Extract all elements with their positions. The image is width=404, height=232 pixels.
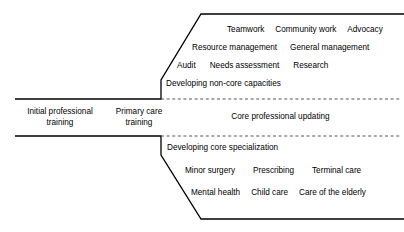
stage-initial-line2: training	[14, 118, 106, 129]
item-needs-assessment: Needs assessment	[210, 61, 280, 70]
upper-row-management: Resource management General management	[192, 43, 369, 52]
item-mental-health: Mental health	[191, 188, 240, 197]
item-community-work: Community work	[275, 25, 336, 34]
career-pathway-diagram: Teamwork Community work Advocacy Resourc…	[0, 0, 404, 232]
item-research: Research	[293, 61, 328, 70]
item-care-of-the-elderly: Care of the elderly	[299, 188, 366, 197]
stage-initial-line1: Initial professional	[14, 107, 106, 118]
item-terminal-care: Terminal care	[312, 166, 361, 175]
item-advocacy: Advocacy	[347, 25, 383, 34]
lower-row-care: Mental health Child care Care of the eld…	[191, 188, 366, 197]
upper-row-teamwork: Teamwork Community work Advocacy	[227, 25, 383, 34]
upper-branch-heading: Developing non-core capacities	[166, 79, 281, 90]
item-general-management: General management	[290, 43, 369, 52]
lower-row-clinical: Minor surgery Prescribing Terminal care	[185, 166, 361, 175]
item-minor-surgery: Minor surgery	[185, 166, 235, 175]
item-prescribing: Prescribing	[253, 166, 294, 175]
core-professional-updating-label: Core professional updating	[161, 112, 400, 123]
item-audit: Audit	[177, 61, 196, 70]
item-child-care: Child care	[251, 188, 288, 197]
item-teamwork: Teamwork	[227, 25, 264, 34]
upper-row-audit: Audit Needs assessment Research	[177, 61, 328, 70]
item-resource-management: Resource management	[192, 43, 277, 52]
stage-initial-professional-training: Initial professional training	[14, 107, 106, 128]
lower-branch-heading: Developing core specialization	[167, 143, 278, 154]
